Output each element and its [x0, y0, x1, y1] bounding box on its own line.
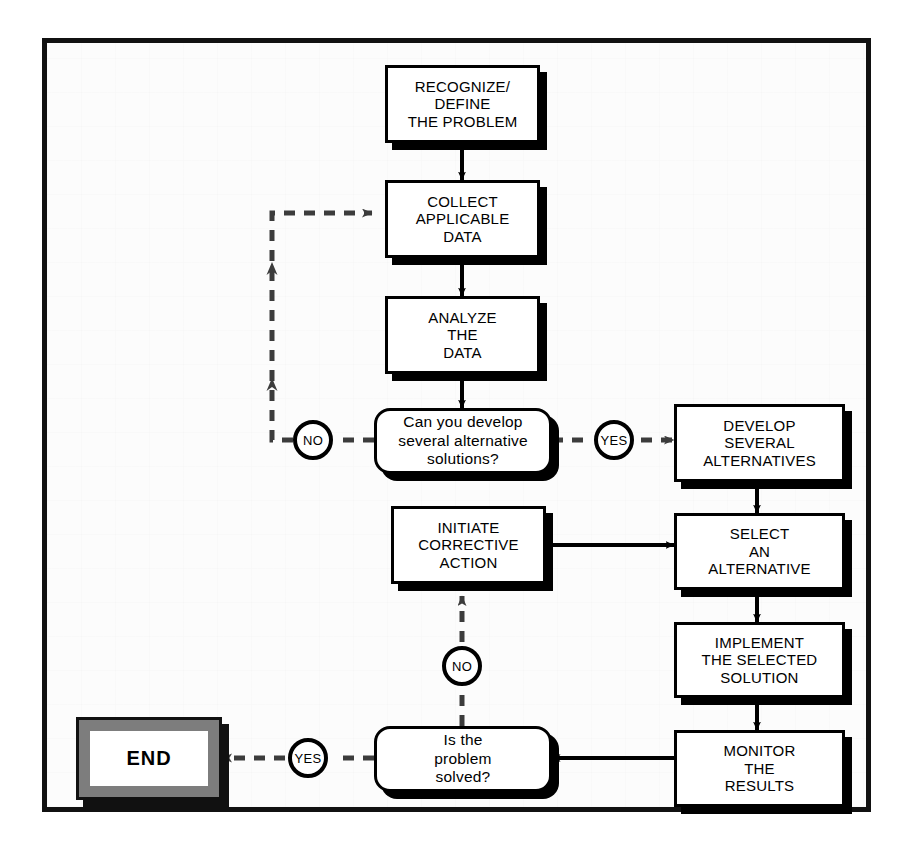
- label-yes-is-solved: YES: [288, 738, 328, 778]
- node-label: END: [126, 747, 171, 770]
- node-label: SELECT AN ALTERNATIVE: [708, 525, 811, 577]
- end-inner-panel: END: [90, 731, 208, 786]
- connector-no-loop-to-collect: [272, 213, 372, 440]
- node-label: DEVELOP SEVERAL ALTERNATIVES: [703, 417, 816, 469]
- node-label: INITIATE CORRECTIVE ACTION: [418, 519, 518, 571]
- node-label: MONITOR THE RESULTS: [724, 742, 796, 794]
- label-text: NO: [303, 433, 323, 448]
- label-text: YES: [295, 751, 322, 766]
- label-no-is-solved: NO: [442, 646, 482, 686]
- node-initiate-corrective-action[interactable]: INITIATE CORRECTIVE ACTION: [391, 506, 546, 584]
- node-collect-applicable-data[interactable]: COLLECT APPLICABLE DATA: [385, 180, 540, 258]
- node-can-you-develop-alternatives[interactable]: Can you develop several alternative solu…: [374, 408, 552, 474]
- node-label: IMPLEMENT THE SELECTED SOLUTION: [702, 634, 818, 686]
- node-develop-several-alternatives[interactable]: DEVELOP SEVERAL ALTERNATIVES: [674, 404, 845, 482]
- node-label: ANALYZE THE DATA: [428, 309, 497, 361]
- node-label: Is the problem solved?: [434, 731, 491, 787]
- flowchart-page: RECOGNIZE/ DEFINE THE PROBLEM COLLECT AP…: [0, 0, 910, 852]
- label-text: YES: [601, 433, 628, 448]
- node-select-an-alternative[interactable]: SELECT AN ALTERNATIVE: [674, 513, 845, 590]
- node-end[interactable]: END: [76, 717, 222, 800]
- node-analyze-the-data[interactable]: ANALYZE THE DATA: [385, 296, 540, 374]
- label-text: NO: [452, 659, 472, 674]
- node-monitor-the-results[interactable]: MONITOR THE RESULTS: [674, 730, 845, 807]
- label-no-can-develop: NO: [293, 420, 333, 460]
- no-loop-arrowhead-lower: [267, 378, 278, 391]
- node-label: Can you develop several alternative solu…: [398, 413, 528, 469]
- node-implement-the-selected-solution[interactable]: IMPLEMENT THE SELECTED SOLUTION: [674, 622, 845, 698]
- node-recognize-define-the-problem[interactable]: RECOGNIZE/ DEFINE THE PROBLEM: [385, 65, 540, 143]
- node-label: COLLECT APPLICABLE DATA: [416, 193, 510, 245]
- label-yes-can-develop: YES: [594, 420, 634, 460]
- node-is-the-problem-solved[interactable]: Is the problem solved?: [374, 726, 552, 792]
- node-label: RECOGNIZE/ DEFINE THE PROBLEM: [408, 78, 518, 130]
